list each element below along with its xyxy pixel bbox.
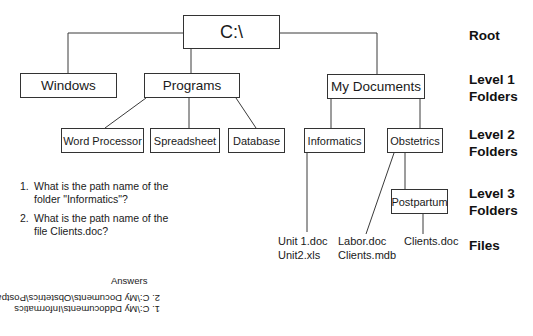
level-label-files: Files <box>469 237 500 254</box>
root-folder-label: C:\ <box>220 22 243 43</box>
level-label-text: Folders <box>469 88 518 105</box>
file-item: Clients.doc <box>404 235 458 249</box>
root-folder-c: C:\ <box>183 15 280 49</box>
folder-programs: Programs <box>144 73 240 98</box>
folder-label: Obstetrics <box>390 135 440 147</box>
level-label-text: Level 3 <box>469 185 518 202</box>
files-informatics: Unit 1.doc Unit2.xls <box>278 235 328 262</box>
files-postpartum: Clients.doc <box>404 235 458 249</box>
level-label-text: Root <box>469 27 500 44</box>
folder-database: Database <box>228 128 285 153</box>
folder-label: Informatics <box>308 135 362 147</box>
tree-connectors <box>0 0 533 336</box>
level-label-text: Folders <box>469 202 518 219</box>
level-label-text: Level 1 <box>469 71 518 88</box>
file-item: Unit2.xls <box>278 249 328 263</box>
folder-windows: Windows <box>20 73 117 98</box>
folder-postpartum: Postpartum <box>391 189 448 214</box>
file-item: Unit 1.doc <box>278 235 328 249</box>
answer-item: 1. C:\My Dddocuments\Informatics <box>20 304 160 315</box>
folder-label: My Documents <box>331 79 421 94</box>
level-label-text: Folders <box>469 143 518 160</box>
folder-my-documents: My Documents <box>327 74 425 99</box>
level-label-root: Root <box>469 27 500 44</box>
answer-item: 2. C:\My Documents\Obstetrics\Postpartum… <box>20 293 160 304</box>
question-text: What is the path name of the file Client… <box>34 212 168 237</box>
folder-informatics: Informatics <box>304 128 365 153</box>
folder-label: Database <box>233 135 280 147</box>
folder-label: Spreadsheet <box>154 135 216 147</box>
folder-label: Postpartum <box>391 196 447 208</box>
question-item: 1. What is the path name of the folder "… <box>20 180 170 205</box>
level-label-level1: Level 1 Folders <box>469 71 518 105</box>
file-item: Clients.mdb <box>338 249 396 263</box>
folder-word-processor: Word Processor <box>61 128 144 153</box>
question-list: 1. What is the path name of the folder "… <box>20 180 170 244</box>
question-item: 2. What is the path name of the file Cli… <box>20 212 170 237</box>
question-number: 1. <box>20 180 29 193</box>
files-obstetrics: Labor.doc Clients.mdb <box>338 235 396 262</box>
question-number: 2. <box>20 212 29 225</box>
question-text: What is the path name of the folder "Inf… <box>34 180 168 205</box>
level-label-level2: Level 2 Folders <box>469 126 518 160</box>
file-item: Labor.doc <box>338 235 396 249</box>
folder-obstetrics: Obstetrics <box>387 128 443 153</box>
level-label-level3: Level 3 Folders <box>469 185 518 219</box>
folder-spreadsheet: Spreadsheet <box>150 128 220 153</box>
answers-upside-down: 1. C:\My Dddocuments\Informatics 2. C:\M… <box>20 293 160 315</box>
file-hierarchy-diagram: C:\ Windows Programs My Documents Word P… <box>0 0 533 336</box>
answers-title: Answers <box>111 275 147 286</box>
level-label-text: Files <box>469 237 500 254</box>
folder-label: Windows <box>41 78 96 93</box>
folder-label: Word Processor <box>63 135 142 147</box>
level-label-text: Level 2 <box>469 126 518 143</box>
folder-label: Programs <box>163 78 222 93</box>
